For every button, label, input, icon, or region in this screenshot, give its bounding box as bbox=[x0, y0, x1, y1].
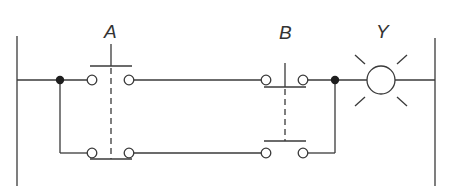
switch-a-bottom-right-contact bbox=[124, 148, 134, 158]
bottom-rung bbox=[60, 80, 335, 153]
switch-b-label: B bbox=[279, 22, 292, 43]
switch-b-bottom-right-contact bbox=[298, 148, 308, 158]
switch-b-bottom-left-contact bbox=[261, 148, 271, 158]
junction-dot-left bbox=[56, 76, 64, 84]
lamp-y-label: Y bbox=[376, 21, 390, 42]
switch-a-label: A bbox=[103, 21, 117, 42]
junction-dot-right bbox=[331, 76, 339, 84]
switch-b-top-left-contact bbox=[261, 75, 271, 85]
ladder-circuit-diagram: A B Y bbox=[0, 0, 451, 187]
switch-a: A bbox=[87, 21, 134, 159]
switch-a-top-right-contact bbox=[124, 75, 134, 85]
switch-b: B bbox=[261, 22, 308, 158]
lamp-icon bbox=[367, 66, 395, 94]
switch-a-bottom-left-contact bbox=[87, 148, 97, 158]
switch-a-top-left-contact bbox=[87, 75, 97, 85]
lamp-y: Y bbox=[355, 21, 407, 106]
switch-b-top-right-contact bbox=[298, 75, 308, 85]
